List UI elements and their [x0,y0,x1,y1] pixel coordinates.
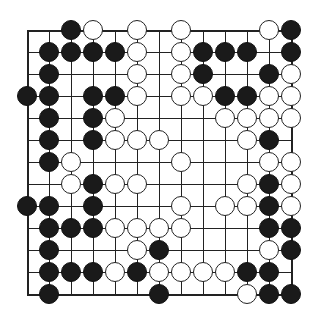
black-stone [281,240,301,260]
black-stone [39,218,59,238]
white-stone [215,262,235,282]
grid-line-vertical [225,30,226,294]
white-stone [149,130,169,150]
black-stone [281,42,301,62]
black-stone [39,108,59,128]
white-stone [127,218,147,238]
white-stone [171,262,191,282]
white-stone [259,20,279,40]
black-stone [39,130,59,150]
white-stone [237,284,257,304]
black-stone [259,64,279,84]
white-stone [171,218,191,238]
black-stone [83,42,103,62]
black-stone [259,262,279,282]
black-stone [61,42,81,62]
black-stone [215,42,235,62]
black-stone [259,218,279,238]
white-stone [171,86,191,106]
white-stone [61,152,81,172]
white-stone [149,218,169,238]
black-stone [39,196,59,216]
black-stone [193,42,213,62]
black-stone [237,262,257,282]
white-stone [105,108,125,128]
white-stone [171,42,191,62]
white-stone [61,174,81,194]
white-stone [127,130,147,150]
black-stone [149,240,169,260]
black-stone [83,130,103,150]
white-stone [281,152,301,172]
black-stone [259,196,279,216]
white-stone [127,174,147,194]
white-stone [259,152,279,172]
black-stone [259,130,279,150]
black-stone [281,218,301,238]
black-stone [39,42,59,62]
white-stone [215,108,235,128]
black-stone [215,86,235,106]
white-stone [127,20,147,40]
white-stone [105,262,125,282]
white-stone [171,152,191,172]
black-stone [17,86,37,106]
white-stone [193,86,213,106]
white-stone [237,174,257,194]
white-stone [281,86,301,106]
white-stone [171,196,191,216]
white-stone [105,174,125,194]
black-stone [39,240,59,260]
white-stone [281,108,301,128]
white-stone [171,20,191,40]
black-stone [105,42,125,62]
black-stone [127,262,147,282]
black-stone [83,196,103,216]
white-stone [105,218,125,238]
black-stone [83,108,103,128]
black-stone [61,20,81,40]
white-stone [237,108,257,128]
white-stone [237,130,257,150]
white-stone [281,196,301,216]
white-stone [215,196,235,216]
white-stone [127,42,147,62]
white-stone [171,64,191,84]
black-stone [83,218,103,238]
white-stone [193,262,213,282]
white-stone [83,20,103,40]
black-stone [193,64,213,84]
black-stone [17,196,37,216]
black-stone [39,152,59,172]
black-stone [259,284,279,304]
black-stone [149,284,169,304]
black-stone [83,86,103,106]
black-stone [237,42,257,62]
black-stone [39,86,59,106]
white-stone [105,130,125,150]
black-stone [83,174,103,194]
white-stone [259,86,279,106]
black-stone [39,262,59,282]
go-board[interactable] [0,0,318,321]
black-stone [281,20,301,40]
black-stone [61,262,81,282]
black-stone [281,284,301,304]
white-stone [237,196,257,216]
white-stone [259,240,279,260]
black-stone [259,174,279,194]
black-stone [39,64,59,84]
white-stone [127,86,147,106]
black-stone [105,86,125,106]
black-stone [237,86,257,106]
grid-line-vertical [247,30,248,294]
black-stone [83,262,103,282]
white-stone [149,262,169,282]
white-stone [281,64,301,84]
black-stone [61,218,81,238]
white-stone [259,108,279,128]
white-stone [127,64,147,84]
white-stone [127,240,147,260]
white-stone [281,174,301,194]
black-stone [39,284,59,304]
